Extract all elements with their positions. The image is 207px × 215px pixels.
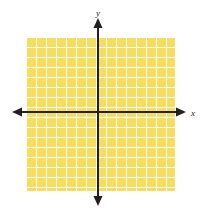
y-axis-label: y <box>95 8 100 18</box>
grid-lines <box>26 37 176 192</box>
x-axis-label: x <box>190 108 195 118</box>
coordinate-plane-figure: y x <box>0 0 207 215</box>
coordinate-plane-svg: y x <box>0 0 207 215</box>
